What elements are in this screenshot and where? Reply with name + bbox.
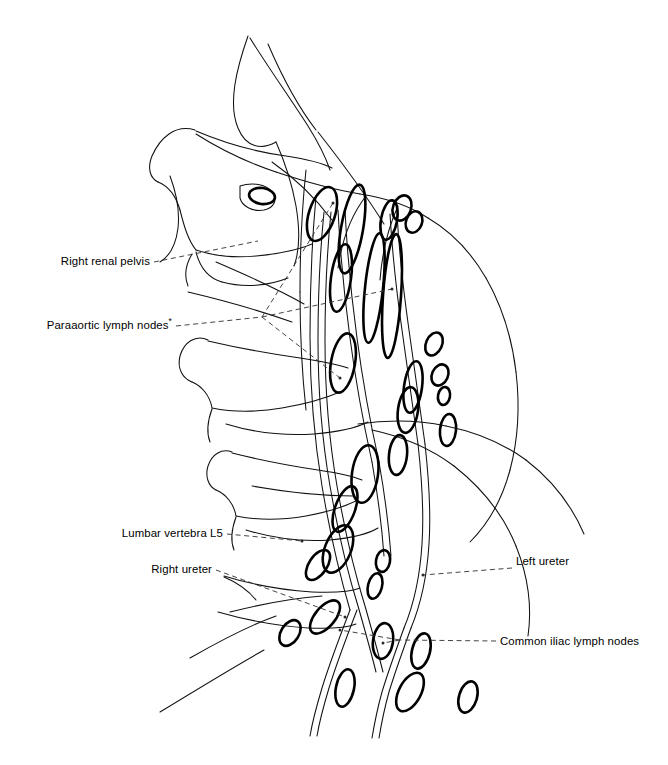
figure-background (0, 0, 668, 765)
leader-dot-paraaortic-lymph-nodes (339, 377, 342, 380)
leader-dot-paraaortic-lymph-nodes (391, 288, 394, 291)
label-lumbar-vertebra-l5: Lumbar vertebra L5 (122, 527, 223, 539)
label-common-iliac-lymph-nodes: Common iliac lymph nodes (500, 635, 639, 647)
leader-dot-left-ureter (422, 574, 425, 577)
label-right-ureter: Right ureter (151, 563, 212, 575)
leader-dot-lumbar-vertebra-l5 (301, 540, 304, 543)
label-lumbar-vertebra-l5-text: Lumbar vertebra L5 (122, 527, 223, 539)
anatomy-line-drawing: Right renal pelvisParaaortic lymph nodes… (0, 0, 668, 765)
label-left-ureter: Left ureter (516, 555, 569, 567)
label-right-renal-pelvis-text: Right renal pelvis (61, 255, 150, 267)
anatomical-figure: Right renal pelvisParaaortic lymph nodes… (0, 0, 668, 765)
label-left-ureter-text: Left ureter (516, 555, 569, 567)
label-paraaortic-lymph-nodes-asterisk: * (169, 316, 173, 326)
leader-dot-common-iliac-lymph-nodes (339, 629, 342, 632)
label-right-ureter-text: Right ureter (151, 563, 212, 575)
label-common-iliac-lymph-nodes-text: Common iliac lymph nodes (500, 635, 639, 647)
label-paraaortic-lymph-nodes-text: Paraaortic lymph nodes (47, 319, 169, 331)
leader-dot-right-ureter (344, 616, 347, 619)
label-paraaortic-lymph-nodes: Paraaortic lymph nodes* (47, 316, 173, 331)
leader-dot-paraaortic-lymph-nodes (332, 202, 335, 205)
label-right-renal-pelvis: Right renal pelvis (61, 255, 150, 267)
leader-dot-common-iliac-lymph-nodes (382, 642, 385, 645)
